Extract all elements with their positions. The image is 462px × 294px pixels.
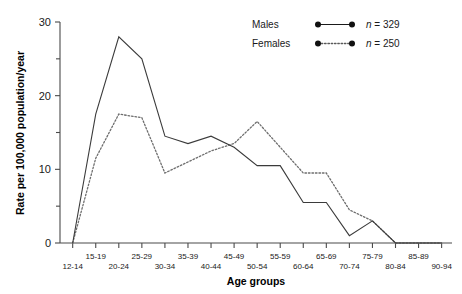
legend-marker-females-start: [315, 41, 321, 47]
legend-entry-males: Males n = 329: [252, 19, 400, 30]
x-tick-label: 45-49: [224, 252, 245, 261]
legend-n-males: n = 329: [366, 19, 400, 30]
x-tick-label: 20-24: [109, 262, 130, 271]
x-tick-label: 90-94: [431, 262, 452, 271]
y-tick-label: 10: [39, 163, 51, 175]
series-line-females: [73, 114, 442, 243]
x-tick-label: 70-74: [339, 262, 360, 271]
legend-label-females: Females: [252, 38, 290, 49]
x-tick-label: 55-59: [270, 252, 291, 261]
x-tick-label: 15-19: [86, 252, 107, 261]
x-tick-label: 40-44: [201, 262, 222, 271]
y-tick-label: 20: [39, 90, 51, 102]
y-axis-title: Rate per 100,000 population/year: [14, 51, 26, 215]
x-tick-label: 60-64: [293, 262, 314, 271]
legend-label-males: Males: [252, 19, 279, 30]
y-axis: 0102030: [39, 16, 60, 249]
x-tick-label: 85-89: [408, 252, 429, 261]
line-chart: Rate per 100,000 population/year 0102030…: [0, 0, 462, 294]
x-axis: 12-1415-1920-2425-2930-3435-3940-4445-49…: [60, 243, 452, 271]
chart-figure: Rate per 100,000 population/year 0102030…: [0, 0, 462, 294]
legend-n-females: n = 250: [366, 38, 400, 49]
legend-marker-females-end: [349, 41, 355, 47]
chart-legend: Males n = 329 Females n = 250: [252, 19, 400, 49]
x-tick-label: 35-39: [178, 252, 199, 261]
series-line-males: [73, 37, 442, 243]
legend-marker-males-end: [349, 22, 355, 28]
x-tick-label: 25-29: [132, 252, 153, 261]
x-tick-label: 50-54: [247, 262, 268, 271]
x-axis-title: Age groups: [227, 275, 285, 287]
legend-marker-males-start: [315, 22, 321, 28]
x-tick-label: 75-79: [362, 252, 383, 261]
x-tick-label: 30-34: [155, 262, 176, 271]
x-tick-label: 80-84: [385, 262, 406, 271]
y-tick-label: 30: [39, 16, 51, 28]
x-tick-label: 65-69: [316, 252, 337, 261]
x-tick-label: 12-14: [62, 262, 83, 271]
legend-entry-females: Females n = 250: [252, 38, 400, 49]
y-tick-label: 0: [45, 237, 51, 249]
plot-area: [73, 37, 442, 243]
